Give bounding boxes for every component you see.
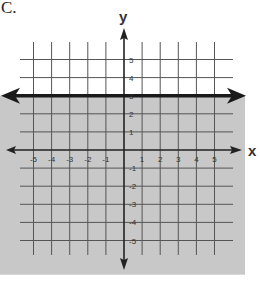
x-tick-label: -4 — [48, 155, 56, 164]
y-tick-label: 1 — [129, 128, 134, 137]
y-tick-label: 2 — [129, 110, 134, 119]
y-tick-label: -5 — [129, 237, 137, 246]
y-tick-label: -1 — [129, 164, 137, 173]
x-tick-label: -3 — [66, 155, 74, 164]
y-tick-label: -3 — [129, 200, 137, 209]
x-tick-label: 4 — [194, 155, 199, 164]
x-tick-label: 2 — [158, 155, 163, 164]
x-tick-label: 3 — [176, 155, 181, 164]
x-tick-label: -5 — [30, 155, 38, 164]
y-tick-label: 5 — [129, 56, 134, 65]
x-tick-label: 5 — [212, 155, 217, 164]
shaded-region — [0, 96, 245, 275]
x-tick-label: -1 — [102, 155, 110, 164]
coordinate-plane: -5-4-3-2-11234554321-1-2-3-4-5 x y — [0, 0, 260, 282]
y-tick-label: -4 — [129, 218, 137, 227]
y-tick-label: 3 — [129, 92, 134, 101]
y-tick-label: 4 — [129, 74, 134, 83]
x-axis-label: x — [248, 142, 257, 159]
x-tick-label: -2 — [84, 155, 92, 164]
y-axis-label: y — [119, 8, 128, 25]
x-tick-label: 1 — [140, 155, 145, 164]
y-tick-label: -2 — [129, 182, 137, 191]
